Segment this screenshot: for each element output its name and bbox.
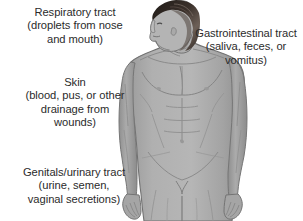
callout-skin: Skin (blood, pus, or other drainage from…: [0, 76, 150, 130]
callout-gastrointestinal-tract: Gastrointestinal tract (saliva, feces, o…: [189, 27, 303, 67]
callout-genitals-urinary-tract: Genitals/urinary tract (urine, semen, va…: [0, 166, 148, 206]
callout-respiratory-tract: Respiratory tract (droplets from nose an…: [2, 6, 148, 46]
portals-of-exit-diagram: Respiratory tract (droplets from nose an…: [0, 0, 303, 221]
